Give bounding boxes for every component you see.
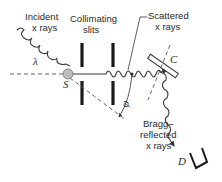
angle-vertex: [130, 72, 133, 75]
compton-diagram: Incident x rays λ S Collimating slits Sc…: [0, 0, 222, 182]
scattered-leader-line: [128, 17, 147, 70]
angle-arc: [119, 74, 132, 117]
bragg-label-line1: Bragg–: [143, 118, 174, 129]
detector-label: D: [177, 155, 186, 167]
wavelength-label: λ: [32, 55, 38, 67]
slits-label-line2: slits: [83, 24, 100, 35]
bragg-label-line3: x rays: [146, 140, 172, 151]
incident-label-line2: x rays: [32, 22, 58, 33]
bragg-label-line2: reflected: [140, 129, 176, 140]
scattered-label-line2: x rays: [155, 21, 181, 32]
scattered-label-line1: Scattered: [148, 10, 189, 21]
scatter-reference-line: [70, 78, 126, 120]
incident-wave: [17, 28, 70, 66]
scattered-wave: [73, 70, 167, 77]
detector: [190, 148, 207, 168]
crystal-label: C: [170, 53, 178, 65]
slits-label-line1: Collimating: [70, 13, 117, 24]
angle-label: φ: [118, 98, 131, 109]
source-label: S: [63, 78, 69, 90]
incident-label-line1: Incident: [25, 11, 59, 22]
